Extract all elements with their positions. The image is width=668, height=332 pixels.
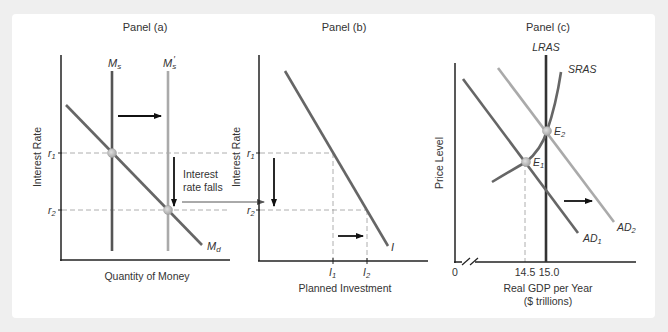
panel-c: Panel (c) LRAS SRAS E2 E1 AD1 AD2 0 14.5… [433,21,637,307]
i1-label: I1 [329,266,336,280]
ad2-label: AD2 [616,221,637,235]
panel-b-title: Panel (b) [322,21,367,33]
ms-prime-label: Ms′ [163,54,176,71]
e1-label: E1 [533,156,544,170]
panel-c-title: Panel (c) [526,21,570,33]
md-curve [66,105,202,245]
panel-a-ylabel: Interest Rate [31,127,43,187]
tick-14-5: 14.5 [515,266,536,278]
figure-svg: Panel (a) Interest rate falls Ms Ms′ Md … [0,0,668,332]
e2-label: E2 [554,125,566,139]
axis-break [462,258,470,265]
r2-label: r2 [48,204,57,218]
r1-label: r1 [247,147,255,161]
tick-0: 0 [452,266,458,278]
md-label: Md [207,240,221,254]
ad2-curve [498,68,614,222]
note-line-2: rate falls [183,181,223,193]
sras-label: SRAS [568,63,597,75]
equilibrium-point-1 [108,149,117,158]
panel-b: Panel (b) I r1 r2 I1 I2 Interest Rate Pl… [230,21,428,294]
e1-point [522,158,531,167]
ad1-label: AD1 [582,232,602,246]
investment-curve-label: I [391,241,394,253]
ms-label: Ms [108,57,121,71]
i2-label: I2 [363,266,371,280]
investment-curve [285,71,388,246]
tick-15-0: 15.0 [539,266,560,278]
panel-a-title: Panel (a) [123,21,168,33]
ad1-curve [463,79,578,233]
note-line-1: Interest [183,168,218,180]
panel-c-ylabel: Price Level [433,137,445,189]
panel-b-xlabel: Planned Investment [299,282,392,294]
e2-point [543,127,552,136]
equilibrium-point-2 [164,206,173,215]
r2-label: r2 [247,204,256,218]
panel-b-ylabel: Interest Rate [230,127,242,187]
panel-a-xlabel: Quantity of Money [104,270,190,282]
lras-label: LRAS [532,41,559,53]
r1-label: r1 [48,147,56,161]
panel-c-xlabel-line2: ($ trillions) [524,295,572,307]
panel-c-xlabel-line1: Real GDP per Year [503,282,593,294]
